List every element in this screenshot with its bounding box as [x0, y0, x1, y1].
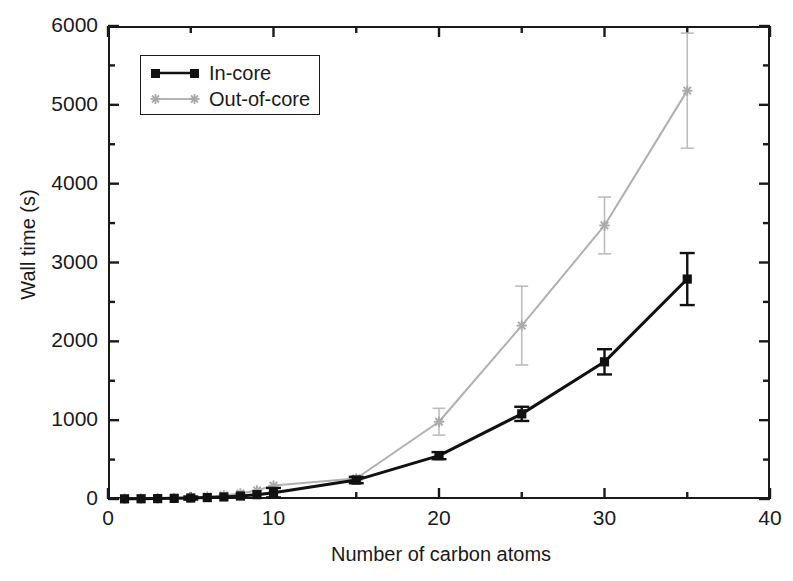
- data-point-square: [517, 409, 526, 418]
- data-point-asterisk: [517, 320, 527, 330]
- series-line-in-core: [125, 279, 688, 499]
- legend-label-out-of-core: Out-of-core: [209, 89, 310, 109]
- legend-label-in-core: In-core: [209, 63, 271, 83]
- data-point-square: [434, 451, 443, 460]
- data-point-square: [269, 488, 278, 497]
- x-tick-label: 0: [73, 506, 143, 530]
- chart-canvas: [0, 0, 793, 581]
- legend-swatch-in-core: [149, 63, 201, 83]
- chart-figure: 0100020003000400050006000 010203040 Wall…: [0, 0, 793, 581]
- legend-item-out-of-core: Out-of-core: [141, 86, 319, 112]
- data-point-asterisk: [682, 85, 692, 95]
- x-tick-label: 40: [735, 506, 793, 530]
- data-point-asterisk: [434, 417, 444, 427]
- data-point-square: [203, 493, 212, 502]
- y-tick-label: 5000: [6, 92, 98, 116]
- series-line-out-of-core: [125, 91, 688, 499]
- data-point-square: [352, 475, 361, 484]
- data-point-square: [137, 494, 146, 503]
- x-tick-label: 10: [239, 506, 309, 530]
- data-point-square: [186, 493, 195, 502]
- legend-swatch-out-of-core: [149, 89, 201, 109]
- data-point-square: [600, 357, 609, 366]
- x-tick-label: 30: [570, 506, 640, 530]
- data-point-square: [153, 494, 162, 503]
- legend-item-in-core: In-core: [141, 60, 319, 86]
- data-point-square: [236, 491, 245, 500]
- data-point-square: [683, 274, 692, 283]
- y-axis-title: Wall time (s): [17, 145, 40, 345]
- data-point-square: [252, 490, 261, 499]
- y-tick-label: 1000: [6, 407, 98, 431]
- data-point-square: [170, 494, 179, 503]
- chart-legend: In-core Out-of-core: [140, 55, 320, 115]
- data-point-square: [120, 494, 129, 503]
- data-point-square: [219, 492, 228, 501]
- y-tick-label: 6000: [6, 13, 98, 37]
- x-axis-title: Number of carbon atoms: [231, 543, 651, 566]
- x-tick-label: 20: [404, 506, 474, 530]
- data-point-asterisk: [599, 220, 609, 230]
